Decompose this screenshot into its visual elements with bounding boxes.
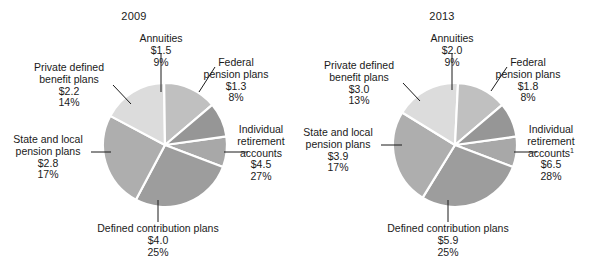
- label-dc-value-2009: $4.0: [78, 235, 238, 247]
- label-ira-percent-2009: 27%: [228, 171, 294, 183]
- label-dc-percent-2013: 25%: [368, 247, 528, 259]
- slice-state-local-2009: [110, 83, 165, 145]
- chart-title-2013: 2013: [294, 10, 590, 22]
- label-federal-name2-2009: pension plans: [188, 69, 284, 81]
- leader-private-db-2009: [113, 85, 131, 104]
- slice-federal-2009: [165, 136, 227, 167]
- label-state-local-name2-2013: pension plans: [296, 139, 380, 151]
- label-dc-2013: Defined contribution plans $5.9 25%: [368, 223, 528, 258]
- label-dc-value-2013: $5.9: [368, 235, 528, 247]
- slice-state-local-2013: [402, 83, 458, 145]
- label-federal-percent-2013: 8%: [480, 92, 576, 104]
- label-ira-percent-2013: 28%: [518, 171, 584, 183]
- label-annuities-value-2009: $1.5: [112, 45, 210, 57]
- slice-dc-2013: [393, 113, 455, 198]
- label-state-local-percent-2009: 17%: [6, 169, 90, 181]
- slice-ira-2009: [136, 145, 223, 207]
- label-private-db-2013: Private defined benefit plans $3.0 13%: [316, 60, 402, 107]
- label-federal-name2-2013: pension plans: [480, 69, 576, 81]
- label-federal-2009: Federal pension plans $1.3 8%: [188, 57, 284, 104]
- label-dc-percent-2009: 25%: [78, 247, 238, 259]
- label-dc-2009: Defined contribution plans $4.0 25%: [78, 223, 238, 258]
- label-ira-name2-2009: retirement: [228, 136, 294, 148]
- label-private-db-name2-2009: benefit plans: [26, 74, 112, 86]
- label-state-local-percent-2013: 17%: [296, 162, 380, 174]
- label-private-db-2009: Private defined benefit plans $2.2 14%: [26, 62, 112, 109]
- label-ira-2013: Individual retirement accounts1 $6.5 28%: [518, 124, 584, 183]
- label-state-local-name2-2009: pension plans: [6, 146, 90, 158]
- slice-federal-2013: [455, 136, 517, 167]
- label-annuities-value-2013: $2.0: [403, 45, 501, 57]
- leader-private-db-2013: [403, 83, 420, 101]
- chart-title-2009: 2009: [0, 10, 282, 22]
- label-ira-footnote-marker-2013: 1: [570, 146, 574, 153]
- label-private-db-name2-2013: benefit plans: [316, 72, 402, 84]
- label-federal-percent-2009: 8%: [188, 92, 284, 104]
- slice-dc-2009: [103, 116, 165, 200]
- label-private-db-percent-2013: 13%: [316, 95, 402, 107]
- slice-annuities-2009: [165, 105, 226, 145]
- chart-panel-2013: 2013: [296, 0, 592, 262]
- label-ira-name3-2013: accounts: [528, 147, 570, 159]
- retirement-assets-pie-figure: 2009: [0, 0, 592, 262]
- slice-ira-2013: [423, 145, 513, 207]
- slice-annuities-2013: [455, 105, 516, 145]
- label-private-db-percent-2009: 14%: [26, 97, 112, 109]
- label-state-local-2009: State and local pension plans $2.8 17%: [6, 134, 90, 181]
- label-ira-2009: Individual retirement accounts $4.5 27%: [228, 124, 294, 183]
- label-state-local-2013: State and local pension plans $3.9 17%: [296, 127, 380, 174]
- label-federal-2013: Federal pension plans $1.8 8%: [480, 57, 576, 104]
- chart-panel-2009: 2009: [0, 0, 296, 262]
